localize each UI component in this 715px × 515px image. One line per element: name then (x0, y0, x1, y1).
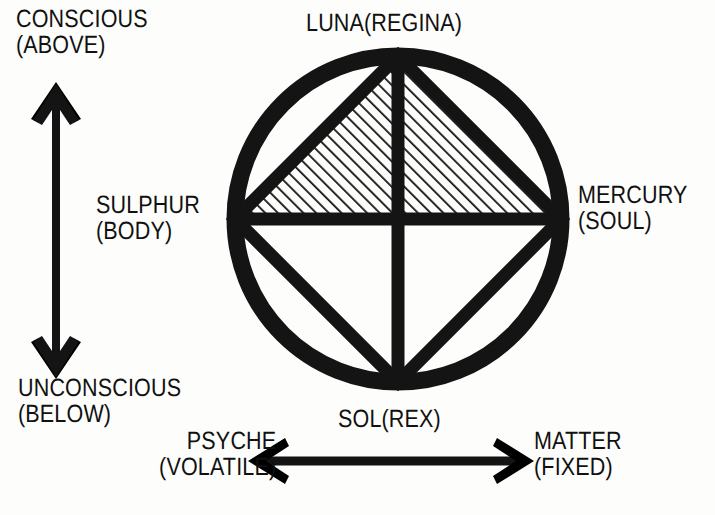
label-mercury-line2: (SOUL) (578, 208, 688, 234)
label-conscious-line1: CONSCIOUS (16, 6, 148, 32)
label-unconscious-line1: UNCONSCIOUS (18, 375, 181, 401)
label-unconscious-below: UNCONSCIOUS (BELOW) (18, 375, 208, 427)
label-unconscious-line2: (BELOW) (18, 401, 181, 427)
diagram-canvas: CONSCIOUS (ABOVE) LUNA(REGINA) SULPHUR (… (0, 0, 715, 515)
label-conscious-above: CONSCIOUS (ABOVE) (16, 6, 169, 58)
label-mercury-soul: MERCURY (SOUL) (578, 182, 705, 234)
label-matter-line1: MATTER (534, 428, 622, 454)
label-psyche-line1: PSYCHE (159, 428, 276, 454)
label-psyche-line2: (VOLATILE) (159, 454, 276, 480)
label-luna-line1: LUNA(REGINA) (306, 10, 462, 36)
label-sol-rex: SOL(REX) (338, 406, 458, 432)
label-sol-line1: SOL(REX) (338, 406, 441, 432)
label-luna-regina: LUNA(REGINA) (306, 10, 488, 36)
label-sulphur-line1: SULPHUR (96, 192, 200, 218)
label-psyche-volatile: PSYCHE (VOLATILE) (140, 428, 276, 480)
psyche-matter-arrow (248, 438, 534, 484)
conscious-unconscious-arrow (31, 82, 81, 379)
label-mercury-line1: MERCURY (578, 182, 688, 208)
label-matter-line2: (FIXED) (534, 454, 622, 480)
circle-group (232, 53, 564, 385)
label-conscious-line2: (ABOVE) (16, 32, 148, 58)
label-matter-fixed: MATTER (FIXED) (534, 428, 636, 480)
label-sulphur-body: SULPHUR (BODY) (96, 192, 217, 244)
label-sulphur-line2: (BODY) (96, 218, 200, 244)
